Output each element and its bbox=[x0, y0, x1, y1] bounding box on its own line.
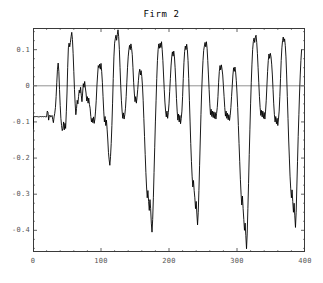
data-series-line bbox=[33, 30, 302, 249]
y-axis-labels: 0.10-0.1-0.2-0.3-0.4 bbox=[0, 0, 30, 283]
x-axis-labels: 0100200300400 bbox=[0, 257, 323, 271]
x-axis-tick-label: 300 bbox=[230, 257, 244, 265]
x-axis-tick-label: 200 bbox=[162, 257, 176, 265]
y-axis-tick-label: 0 bbox=[25, 82, 30, 90]
page-title: Firm 2 bbox=[0, 9, 323, 19]
x-axis-tick-label: 100 bbox=[94, 257, 108, 265]
y-axis-tick-label: -0.1 bbox=[12, 118, 30, 126]
y-axis-tick-label: 0.1 bbox=[16, 46, 30, 54]
y-axis-tick-label: -0.4 bbox=[12, 226, 30, 234]
x-axis-tick-label: 400 bbox=[298, 257, 312, 265]
y-axis-tick-label: -0.3 bbox=[12, 190, 30, 198]
chart-root: Firm 2 0.10-0.1-0.2-0.3-0.4 010020030040… bbox=[0, 0, 323, 283]
x-axis-tick-label: 0 bbox=[31, 257, 36, 265]
series-canvas bbox=[33, 28, 305, 252]
y-axis-tick-label: -0.2 bbox=[12, 154, 30, 162]
plot-area bbox=[33, 28, 305, 252]
